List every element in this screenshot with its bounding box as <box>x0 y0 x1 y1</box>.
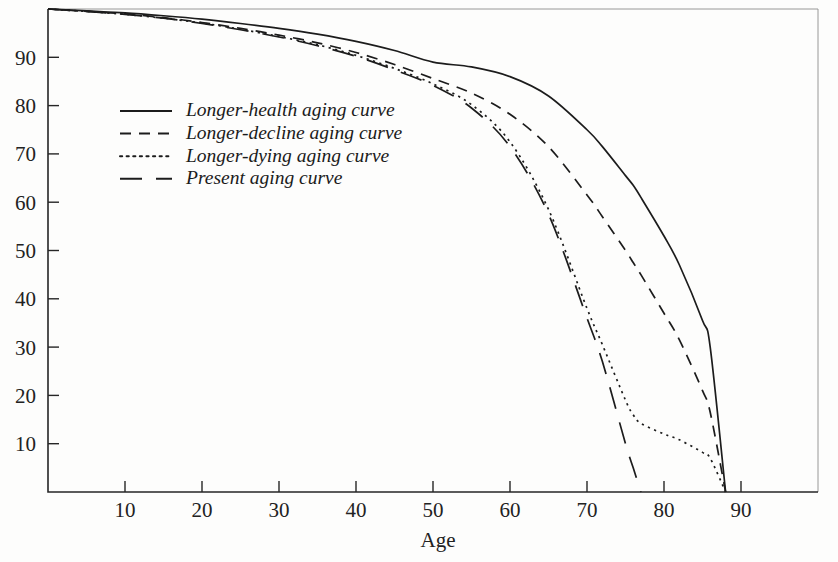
series-line-1 <box>48 9 726 492</box>
x-tick-label-30: 30 <box>269 498 290 522</box>
plot-axis-lines <box>48 9 818 492</box>
y-tick-label-20: 20 <box>15 384 36 408</box>
aging-curves-chart: 102030405060708090102030405060708090 Lon… <box>0 0 838 562</box>
y-tick-label-50: 50 <box>15 239 36 263</box>
plot-frame <box>48 9 818 492</box>
y-tick-label-10: 10 <box>15 432 36 456</box>
chart-legend: Longer-health aging curveLonger-decline … <box>120 99 403 188</box>
plot-frame-faint <box>48 9 818 492</box>
figure-container: ····························· 1020304050… <box>0 0 838 562</box>
x-tick-label-20: 20 <box>192 498 213 522</box>
x-tick-label-40: 40 <box>346 498 367 522</box>
y-tick-label-90: 90 <box>15 46 36 70</box>
y-tick-label-40: 40 <box>15 287 36 311</box>
x-tick-label-80: 80 <box>654 498 675 522</box>
y-tick-label-30: 30 <box>15 336 36 360</box>
x-tick-label-10: 10 <box>115 498 136 522</box>
legend-label-3: Present aging curve <box>185 167 343 188</box>
x-tick-label-90: 90 <box>731 498 752 522</box>
legend-label-1: Longer-decline aging curve <box>185 122 403 143</box>
y-tick-label-70: 70 <box>15 142 36 166</box>
x-tick-label-50: 50 <box>423 498 444 522</box>
legend-label-0: Longer-health aging curve <box>185 99 395 120</box>
x-tick-label-70: 70 <box>577 498 598 522</box>
series-line-0 <box>48 9 726 492</box>
x-axis-title: Age <box>421 528 456 552</box>
y-tick-label-60: 60 <box>15 191 36 215</box>
data-series <box>48 9 726 492</box>
legend-label-2: Longer-dying aging curve <box>185 145 390 166</box>
series-line-3 <box>48 9 641 492</box>
series-line-2 <box>48 9 726 492</box>
x-tick-label-60: 60 <box>500 498 521 522</box>
y-tick-label-80: 80 <box>15 94 36 118</box>
